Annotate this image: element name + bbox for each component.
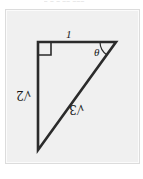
scan-clipped-header-text: – – – –– ––– — [44, 0, 143, 3]
label-hypotenuse-side: √3 — [69, 102, 84, 116]
right-angle-marker-icon — [38, 42, 51, 55]
label-left-side: √2 — [16, 88, 31, 102]
label-angle-theta: θ — [94, 46, 99, 58]
angle-arc-icon — [100, 42, 107, 55]
figure-panel: 1 √2 √3 θ — [5, 9, 140, 164]
triangle-shape — [38, 42, 116, 150]
label-top-side: 1 — [66, 28, 72, 40]
